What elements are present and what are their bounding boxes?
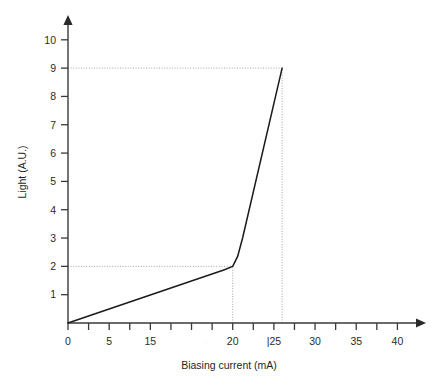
y-axis-tick-label: 5	[50, 175, 56, 187]
y-axis-tick-label: 8	[50, 90, 56, 102]
y-axis-tick-label: 2	[50, 260, 56, 272]
plot-background	[0, 0, 438, 381]
x-axis-tick-label: 0	[65, 335, 71, 347]
y-axis-tick-label: 3	[50, 232, 56, 244]
x-axis-title: Biasing current (mA)	[181, 359, 277, 371]
y-axis-tick-label: 1	[50, 288, 56, 300]
y-axis-tick-label: 9	[50, 62, 56, 74]
x-axis-tick-label: 20	[227, 335, 239, 347]
y-axis-tick-label: 7	[50, 119, 56, 131]
x-axis-tick-label: 15	[145, 335, 157, 347]
x-axis-tick-label: 35	[350, 335, 362, 347]
y-axis-title: Light (A.U.)	[16, 145, 28, 198]
light-vs-biasing-current-chart: 12345678910 051520|25303540 Biasing curr…	[0, 0, 438, 381]
x-axis-tick-label: 5	[106, 335, 112, 347]
y-axis-tick-label: 10	[44, 34, 56, 46]
y-axis-tick-label: 6	[50, 147, 56, 159]
figure-container: 12345678910 051520|25303540 Biasing curr…	[0, 0, 438, 381]
x-axis-tick-label: 40	[392, 335, 404, 347]
y-axis-tick-label: 4	[50, 204, 56, 216]
x-axis-tick-label: |25	[267, 335, 282, 347]
x-axis-tick-label: 30	[309, 335, 321, 347]
